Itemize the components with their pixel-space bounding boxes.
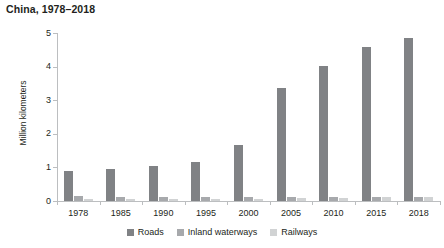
x-axis-tick-label: 1978 (57, 208, 100, 218)
y-axis-tick (53, 167, 57, 168)
x-axis-tick (270, 201, 271, 205)
bar-roads-2005 (277, 88, 286, 201)
bar-roads-1985 (106, 169, 115, 201)
legend-item-railways[interactable]: Railways (270, 227, 317, 237)
x-axis-line (57, 201, 440, 202)
legend-item-roads[interactable]: Roads (127, 227, 164, 237)
x-axis-tick-label: 1990 (142, 208, 185, 218)
bar-railways-2005 (297, 198, 306, 201)
legend-swatch-icon (270, 229, 277, 236)
x-axis-tick-label: 2015 (355, 208, 398, 218)
x-axis-tick (397, 201, 398, 205)
x-axis-tick-label: 1985 (100, 208, 143, 218)
x-axis-tick-label: 2005 (270, 208, 313, 218)
x-axis-tick (355, 201, 356, 205)
bar-railways-1995 (211, 199, 220, 201)
plot-area: 0123451978198519901995200020052010201520… (57, 33, 440, 201)
x-axis-tick (57, 201, 58, 205)
bar-railways-2000 (254, 199, 263, 201)
bar-inland-waterways-2010 (329, 197, 338, 201)
bar-railways-1985 (126, 199, 135, 201)
bar-inland-waterways-1990 (159, 197, 168, 201)
legend-label: Railways (281, 227, 317, 237)
x-axis-tick-label: 2018 (397, 208, 440, 218)
bar-roads-1978 (64, 171, 73, 201)
y-axis-tick-label: 4 (33, 62, 51, 71)
bar-railways-2010 (339, 198, 348, 201)
x-axis-tick (100, 201, 101, 205)
y-axis-tick (53, 134, 57, 135)
bar-roads-1990 (149, 166, 158, 201)
y-axis-tick (53, 33, 57, 34)
x-axis-tick-label: 1995 (185, 208, 228, 218)
x-axis-tick-label: 2010 (312, 208, 355, 218)
x-axis-tick (227, 201, 228, 205)
bar-chart: China, 1978–2018 Million kilometers 0123… (0, 0, 444, 248)
legend-swatch-icon (127, 229, 134, 236)
y-axis-tick-label: 5 (33, 29, 51, 38)
y-axis-title: Million kilometers (18, 43, 28, 183)
bar-roads-2018 (404, 38, 413, 201)
bar-inland-waterways-1978 (74, 196, 83, 201)
bar-roads-2015 (362, 47, 371, 201)
x-axis-tick (142, 201, 143, 205)
bar-inland-waterways-1985 (116, 197, 125, 201)
legend-swatch-icon (177, 229, 184, 236)
bar-railways-1990 (169, 199, 178, 201)
y-axis-tick-label: 2 (33, 129, 51, 138)
bar-inland-waterways-2018 (414, 197, 423, 201)
y-axis-tick-label: 3 (33, 96, 51, 105)
y-axis-tick (53, 100, 57, 101)
x-axis-tick-label: 2000 (227, 208, 270, 218)
chart-legend: RoadsInland waterwaysRailways (0, 227, 444, 237)
x-axis-tick (312, 201, 313, 205)
y-axis-tick-label: 0 (33, 197, 51, 206)
bar-railways-2018 (424, 197, 433, 201)
y-axis-tick (53, 67, 57, 68)
legend-label: Inland waterways (188, 227, 258, 237)
bar-railways-1978 (84, 199, 93, 201)
bar-inland-waterways-2000 (244, 197, 253, 201)
y-axis-tick-label: 1 (33, 163, 51, 172)
bar-inland-waterways-2005 (287, 197, 296, 201)
bar-roads-2000 (234, 145, 243, 201)
y-axis-line (57, 33, 58, 201)
legend-item-inland-waterways[interactable]: Inland waterways (177, 227, 258, 237)
bar-roads-2010 (319, 66, 328, 201)
legend-label: Roads (138, 227, 164, 237)
bar-inland-waterways-2015 (372, 197, 381, 201)
chart-title: China, 1978–2018 (6, 3, 95, 15)
bar-inland-waterways-1995 (201, 197, 210, 201)
x-axis-tick (185, 201, 186, 205)
bar-roads-1995 (191, 162, 200, 201)
x-axis-tick (440, 201, 441, 205)
bar-railways-2015 (382, 197, 391, 201)
